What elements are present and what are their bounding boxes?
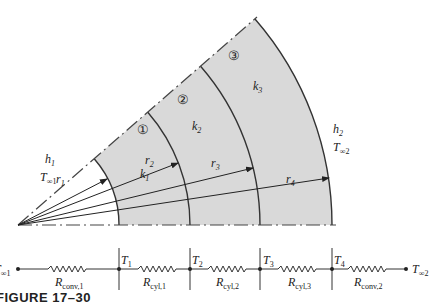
label-h2: h2	[333, 122, 343, 138]
layer-marker-2: ②	[177, 92, 189, 107]
circuit-label-Rcyl2: Rcyl,2	[215, 275, 239, 291]
node-dot-T2	[188, 267, 192, 271]
node-dot-T1	[117, 267, 121, 271]
circuit-label-Tinf2: T∞2	[412, 262, 428, 278]
multilayer-cylinder-figure: r1 r2 r3 r4 ① ② ③ k1 k2 k3 h1 T∞1 h2 T∞2	[0, 0, 441, 304]
label-Tinf1: T∞1	[40, 170, 56, 186]
circuit-label-T4: T4	[334, 253, 345, 269]
diagram-canvas: r1 r2 r3 r4 ① ② ③ k1 k2 k3 h1 T∞1 h2 T∞2	[0, 0, 441, 304]
layer-marker-1: ①	[137, 122, 149, 137]
figure-caption: FIGURE 17–30	[0, 290, 91, 304]
circuit-label-Rconv1: Rconv,1	[54, 275, 83, 291]
layer-marker-3: ③	[228, 48, 240, 63]
label-Tinf2: T∞2	[333, 140, 349, 156]
label-h1: h1	[45, 152, 55, 168]
wall-region	[94, 19, 332, 225]
circuit-label-Rconv2: Rconv,2	[353, 275, 382, 291]
circuit-label-Rcyl3: Rcyl,3	[287, 275, 311, 291]
label-r1: r1	[56, 172, 65, 188]
circuit-label-T3: T3	[263, 253, 274, 269]
node-dot-Tinf2	[404, 267, 408, 271]
node-dot-T4	[330, 267, 334, 271]
node-dot-T3	[258, 267, 262, 271]
circuit-label-Tinf1: T∞1	[0, 262, 10, 278]
circuit-label-Rcyl1: Rcyl,1	[142, 275, 166, 291]
circuit-label-T1: T1	[121, 253, 132, 269]
node-dot-Tinf1	[16, 267, 20, 271]
circuit-label-T2: T2	[192, 253, 203, 269]
